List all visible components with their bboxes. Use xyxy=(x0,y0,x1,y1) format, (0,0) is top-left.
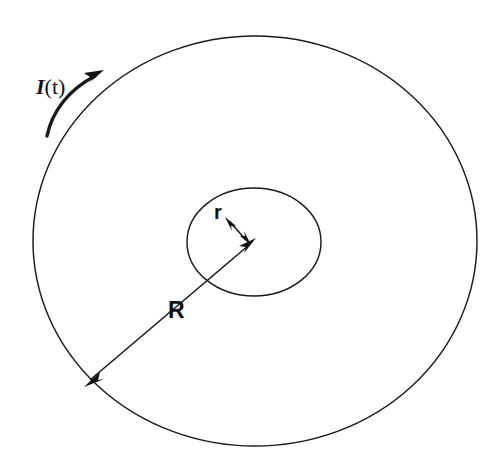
current-argument: (t) xyxy=(45,74,66,99)
figure-container: I(t) R r xyxy=(0,0,495,468)
current-label: I(t) xyxy=(35,74,65,99)
inner-radius-label: r xyxy=(214,201,222,223)
inner-radius-arrowhead-lower xyxy=(240,231,251,245)
inner-radius-arrowhead-upper xyxy=(225,217,236,231)
diagram-canvas: I(t) R r xyxy=(0,0,495,468)
outer-circle xyxy=(33,36,477,446)
outer-radius-label: R xyxy=(168,297,185,323)
